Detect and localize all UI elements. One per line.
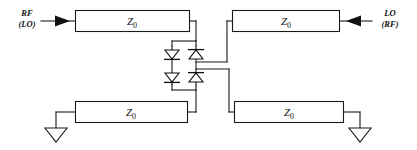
circuit-diagram: Z0 Z0 Z0 Z0 <box>0 0 417 150</box>
left-port-primary-label: RF <box>20 8 33 18</box>
wire-topright-to-bridge <box>196 21 233 62</box>
mixer-schematic-figure: Z0 Z0 Z0 Z0 <box>0 0 417 150</box>
right-port-arrow <box>340 16 372 27</box>
tline-bottom-right: Z0 <box>235 102 344 123</box>
tline-top-right: Z0 <box>233 11 340 32</box>
left-port-arrow <box>41 16 76 27</box>
ground-right-branch <box>344 112 372 142</box>
tline-bottom-left: Z0 <box>76 102 188 123</box>
ground-triangle-icon <box>45 128 67 142</box>
diode-lower-left <box>164 73 180 82</box>
diode-lower-right <box>188 73 204 82</box>
tline-top-left: Z0 <box>76 11 190 32</box>
diode-triangle-up-icon <box>189 50 203 59</box>
right-port-primary-label: LO <box>383 8 395 18</box>
diode-upper-left <box>164 50 180 59</box>
right-port-secondary-label: (RF) <box>382 19 399 29</box>
diode-upper-right <box>188 50 204 59</box>
diode-triangle-down-icon <box>165 73 179 82</box>
diode-triangle-up-icon <box>189 73 203 82</box>
ground-triangle-icon <box>349 128 371 142</box>
left-port-secondary-label: (LO) <box>19 19 36 29</box>
ground-left-branch <box>45 112 76 142</box>
diode-triangle-down-icon <box>165 50 179 59</box>
wire-bottomright-to-bridge <box>196 69 235 112</box>
